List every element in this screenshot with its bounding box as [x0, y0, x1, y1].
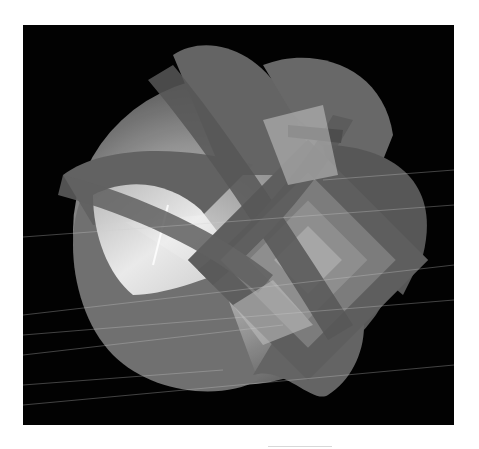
rendered-surface: [23, 25, 454, 425]
divider-line: [268, 446, 332, 447]
render-panel: [23, 25, 454, 425]
figure-frame: [0, 0, 479, 449]
